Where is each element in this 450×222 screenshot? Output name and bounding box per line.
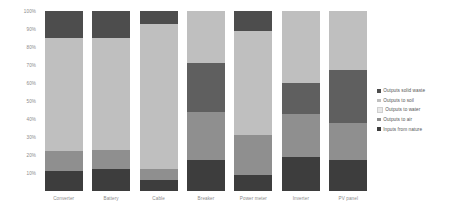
y-axis-tick-label: 90%	[27, 27, 37, 32]
stacked-bar[interactable]	[329, 11, 367, 191]
stacked-bar[interactable]	[45, 11, 83, 191]
x-axis-tick-label: PV panel	[339, 196, 358, 201]
y-axis-tick-label: 40%	[27, 117, 37, 122]
bar-segment[interactable]	[45, 11, 83, 38]
y-axis-tick-label: 10%	[27, 171, 37, 176]
legend-item-label: Outputs to soil	[383, 98, 414, 103]
bar-segment[interactable]	[187, 112, 225, 161]
bar-segment[interactable]	[234, 175, 272, 191]
bar-group	[234, 11, 272, 191]
bar-segment[interactable]	[329, 160, 367, 191]
bar-segment[interactable]	[45, 171, 83, 191]
stacked-bar[interactable]	[234, 11, 272, 191]
y-axis-tick-label: 30%	[27, 135, 37, 140]
bar-segment[interactable]	[329, 70, 367, 122]
bar-segment[interactable]	[234, 11, 272, 31]
bar-group	[187, 11, 225, 191]
x-axis-tick-label: Inverter	[293, 196, 309, 201]
bar-segment[interactable]	[282, 157, 320, 191]
bar-group	[92, 11, 130, 191]
bar-segment[interactable]	[140, 180, 178, 191]
bar-segment[interactable]	[92, 150, 130, 170]
legend-swatch-icon	[377, 89, 381, 93]
legend-swatch-icon	[377, 127, 381, 131]
legend-swatch-icon	[377, 99, 381, 103]
x-axis-tick-label: Converter	[53, 196, 74, 201]
legend-item-label: Inputs from nature	[383, 127, 422, 132]
stacked-bar[interactable]	[140, 11, 178, 191]
bar-segment[interactable]	[92, 169, 130, 191]
bar-group	[140, 11, 178, 191]
x-axis-tick-label: Battery	[104, 196, 119, 201]
legend-item[interactable]: Outputs to water	[377, 105, 449, 115]
stacked-bar-chart: 100%90%80%70%60%50%40%30%20%10% Outputs …	[0, 0, 450, 222]
legend-item[interactable]: Outputs solid waste	[377, 86, 449, 96]
bar-group	[329, 11, 367, 191]
bar-segment[interactable]	[45, 38, 83, 151]
chart-legend: Outputs solid wasteOutputs to soilOutput…	[377, 86, 449, 134]
bar-segment[interactable]	[329, 11, 367, 70]
bar-segment[interactable]	[140, 11, 178, 24]
bar-segment[interactable]	[140, 24, 178, 170]
x-axis-tick-label: Breaker	[198, 196, 215, 201]
bar-segment[interactable]	[282, 11, 320, 83]
plot-area	[40, 11, 372, 191]
y-axis-tick-label: 60%	[27, 81, 37, 86]
bar-segment[interactable]	[187, 160, 225, 191]
legend-item[interactable]: Outputs to air	[377, 115, 449, 125]
legend-item-label: Outputs to air	[383, 117, 412, 122]
y-axis-tick-label: 20%	[27, 153, 37, 158]
bar-segment[interactable]	[140, 169, 178, 180]
bar-segment[interactable]	[234, 135, 272, 175]
bar-segment[interactable]	[329, 123, 367, 161]
stacked-bar[interactable]	[282, 11, 320, 191]
y-axis-tick-label: 100%	[24, 9, 36, 14]
legend-item[interactable]: Inputs from nature	[377, 124, 449, 134]
y-axis: 100%90%80%70%60%50%40%30%20%10%	[0, 0, 40, 222]
y-axis-tick-label: 80%	[27, 45, 37, 50]
bar-segment[interactable]	[234, 31, 272, 135]
x-axis-tick-label: Cable	[152, 196, 165, 201]
bar-segment[interactable]	[187, 11, 225, 63]
bar-segment[interactable]	[282, 83, 320, 114]
bar-segment[interactable]	[45, 151, 83, 171]
legend-swatch-icon	[377, 118, 381, 122]
stacked-bar[interactable]	[187, 11, 225, 191]
legend-item-label: Outputs solid waste	[383, 88, 425, 93]
bar-segment[interactable]	[282, 114, 320, 157]
legend-swatch-icon	[377, 107, 383, 113]
stacked-bar[interactable]	[92, 11, 130, 191]
bar-segment[interactable]	[92, 11, 130, 38]
y-axis-tick-label: 70%	[27, 63, 37, 68]
bar-segment[interactable]	[92, 38, 130, 150]
legend-item[interactable]: Outputs to soil	[377, 96, 449, 106]
y-axis-tick-label: 50%	[27, 99, 37, 104]
bar-segment[interactable]	[187, 63, 225, 112]
bar-group	[45, 11, 83, 191]
legend-item-label: Outputs to water	[385, 107, 420, 112]
x-axis-tick-label: Power meter	[240, 196, 267, 201]
bar-group	[282, 11, 320, 191]
